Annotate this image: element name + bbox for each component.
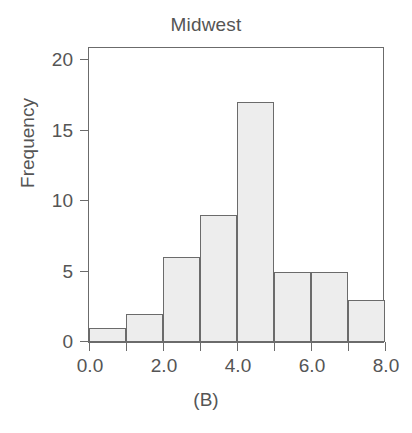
x-axis-tick: 2.0 — [163, 342, 164, 351]
histogram-bar — [274, 272, 311, 342]
x-axis-tick-label: 0.0 — [77, 355, 103, 377]
x-axis-tick — [274, 342, 275, 351]
histogram-bar — [348, 300, 385, 342]
histogram-bar — [126, 314, 163, 342]
histogram-bar — [237, 102, 274, 342]
x-axis-tick — [126, 342, 127, 351]
x-axis-tick: 6.0 — [311, 342, 312, 351]
y-axis-tick: 15 — [80, 130, 89, 131]
y-axis-tick-label: 10 — [52, 190, 73, 212]
y-axis-tick-label: 0 — [62, 331, 73, 353]
x-axis-tick-label: 4.0 — [225, 355, 251, 377]
y-axis-tick: 0 — [80, 341, 89, 342]
y-axis-tick-label: 20 — [52, 49, 73, 71]
plot-area: 051015200.02.04.06.08.0 — [89, 48, 383, 342]
x-axis-tick: 8.0 — [385, 342, 386, 351]
x-axis-tick: 0.0 — [89, 342, 90, 351]
histogram-bar — [311, 272, 348, 342]
histogram-figure: Midwest Frequency 051015200.02.04.06.08.… — [0, 0, 412, 433]
x-axis-tick-label: 6.0 — [299, 355, 325, 377]
histogram-bar — [200, 215, 237, 342]
chart-title: Midwest — [0, 14, 412, 36]
y-axis-tick: 20 — [80, 59, 89, 60]
histogram-bar — [89, 328, 126, 342]
y-axis-tick: 5 — [80, 271, 89, 272]
x-axis-tick-label: 8.0 — [373, 355, 399, 377]
x-axis-tick — [348, 342, 349, 351]
histogram-bar — [163, 257, 200, 342]
y-axis-tick-label: 5 — [62, 261, 73, 283]
y-axis-title: Frequency — [17, 53, 39, 233]
panel-caption: (B) — [0, 389, 412, 411]
x-axis-tick: 4.0 — [237, 342, 238, 351]
y-axis-tick-label: 15 — [52, 120, 73, 142]
y-axis-tick: 10 — [80, 200, 89, 201]
x-axis-tick — [200, 342, 201, 351]
x-axis-tick-label: 2.0 — [151, 355, 177, 377]
plot-frame: 051015200.02.04.06.08.0 — [88, 47, 384, 343]
